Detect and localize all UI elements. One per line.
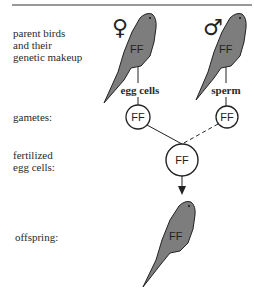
- sperm-label: sperm: [211, 84, 240, 96]
- label-line: genetic makeup: [13, 51, 82, 63]
- female-symbol-icon: ♀: [112, 15, 128, 40]
- arrow-down-icon: [178, 186, 186, 195]
- label-line: egg cells:: [13, 161, 55, 173]
- genetics-diagram: FF ♀ FF ♂ FF FF FF: [0, 0, 254, 308]
- egg-cells-label: egg cells: [121, 84, 160, 96]
- bird-silhouette-icon: [143, 202, 195, 288]
- label-fertilized-egg-cells: fertilized egg cells:: [13, 149, 55, 173]
- label-parent-birds: parent birds and their genetic makeup: [13, 27, 82, 63]
- label-line: fertilized: [13, 149, 55, 161]
- egg-genotype: FF: [131, 111, 145, 123]
- sperm-gamete: FF: [216, 106, 238, 128]
- label-line: parent birds: [13, 27, 82, 39]
- female-genotype: FF: [130, 43, 144, 55]
- egg-to-zygote-line: [147, 125, 182, 144]
- label-line: and their: [13, 39, 82, 51]
- offspring-bird: FF: [143, 202, 195, 288]
- male-genotype: FF: [219, 43, 233, 55]
- bird-eye-icon: [149, 17, 151, 19]
- fertilized-egg-cell: FF: [166, 144, 198, 176]
- label-offspring: offspring:: [15, 231, 58, 243]
- bird-eye-icon: [239, 17, 241, 19]
- egg-cell-gamete: FF: [126, 105, 150, 129]
- male-symbol-icon: ♂: [203, 15, 223, 40]
- zygote-genotype: FF: [175, 154, 189, 166]
- bird-eye-icon: [188, 205, 190, 207]
- sperm-to-zygote-dashed-line: [182, 124, 218, 144]
- label-gametes: gametes:: [13, 111, 52, 123]
- offspring-genotype: FF: [169, 230, 183, 242]
- sperm-genotype: FF: [220, 111, 234, 123]
